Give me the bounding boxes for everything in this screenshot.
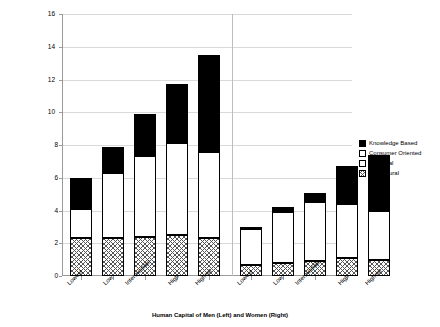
bar-lowest-women[interactable] bbox=[240, 227, 262, 276]
bar-segment-consumer[interactable] bbox=[368, 211, 390, 260]
bar-segment-consumer[interactable] bbox=[240, 229, 262, 265]
bar-segment-agricultural[interactable] bbox=[272, 263, 294, 276]
bar-segment-consumer[interactable] bbox=[272, 212, 294, 263]
bar-segment-consumer[interactable] bbox=[102, 173, 124, 239]
y-tick-label-16: 16 bbox=[33, 10, 55, 17]
y-tick-label-2: 2 bbox=[36, 239, 58, 246]
bars-layer bbox=[62, 14, 352, 276]
chart-container: Business Creator Prevalence (#/100 Adult… bbox=[0, 0, 440, 327]
x-tick-mark bbox=[315, 276, 316, 280]
bar-segment-agricultural[interactable] bbox=[336, 258, 358, 276]
bar-segment-agricultural[interactable] bbox=[166, 235, 188, 276]
panel-separator bbox=[232, 14, 233, 276]
legend-label: Industrial bbox=[369, 160, 393, 167]
bar-high-men[interactable] bbox=[166, 84, 188, 276]
x-tick-label-low-men: Low bbox=[102, 274, 114, 286]
bar-segment-knowledge[interactable] bbox=[134, 114, 156, 157]
x-tick-mark bbox=[145, 276, 146, 280]
bar-segment-knowledge[interactable] bbox=[240, 227, 262, 229]
y-tick-label-8: 8 bbox=[36, 141, 58, 148]
y-tick-label-14: 14 bbox=[33, 43, 55, 50]
x-tick-label-low-women: Low bbox=[272, 274, 284, 286]
bar-highest-men[interactable] bbox=[198, 55, 220, 276]
legend-item-consumer-oriented[interactable]: Consumer Oriented bbox=[359, 150, 439, 157]
bar-high-women[interactable] bbox=[336, 166, 358, 276]
bar-segment-consumer[interactable] bbox=[134, 156, 156, 236]
bar-segment-knowledge[interactable] bbox=[272, 207, 294, 212]
bar-segment-knowledge[interactable] bbox=[102, 147, 124, 173]
bar-low-men[interactable] bbox=[102, 147, 124, 276]
y-tick-label-0: 0 bbox=[36, 272, 58, 279]
y-tick-label-10: 10 bbox=[33, 108, 55, 115]
legend-swatch-icon bbox=[359, 160, 366, 167]
bar-intermediate-men[interactable] bbox=[134, 114, 156, 276]
bar-segment-knowledge[interactable] bbox=[336, 166, 358, 204]
x-tick-mark bbox=[209, 276, 210, 280]
bar-segment-knowledge[interactable] bbox=[304, 193, 326, 203]
legend-label: Knowledge Based bbox=[369, 140, 417, 147]
legend-swatch-icon bbox=[359, 150, 366, 157]
bar-lowest-men[interactable] bbox=[70, 178, 92, 276]
legend-item-industrial[interactable]: Industrial bbox=[359, 160, 439, 167]
legend-label: Consumer Oriented bbox=[369, 150, 421, 157]
x-tick-mark bbox=[251, 276, 252, 280]
y-tick-label-6: 6 bbox=[36, 174, 58, 181]
legend: Knowledge Based Consumer Oriented Indust… bbox=[359, 140, 439, 180]
legend-label: Agricultural bbox=[369, 170, 399, 177]
bar-segment-knowledge[interactable] bbox=[166, 84, 188, 143]
bar-segment-consumer[interactable] bbox=[198, 152, 220, 239]
legend-item-knowledge-based[interactable]: Knowledge Based bbox=[359, 140, 439, 147]
bar-segment-knowledge[interactable] bbox=[198, 55, 220, 152]
y-tick-mark bbox=[59, 276, 62, 277]
bar-segment-consumer[interactable] bbox=[304, 202, 326, 261]
legend-swatch-icon bbox=[359, 170, 366, 177]
x-axis-label: Human Capital of Men (Left) and Women (R… bbox=[0, 312, 440, 318]
bar-segment-consumer[interactable] bbox=[166, 143, 188, 235]
bar-segment-knowledge[interactable] bbox=[70, 178, 92, 209]
y-tick-label-4: 4 bbox=[36, 207, 58, 214]
x-tick-mark bbox=[81, 276, 82, 280]
bar-segment-consumer[interactable] bbox=[336, 204, 358, 258]
legend-item-agricultural[interactable]: Agricultural bbox=[359, 170, 439, 177]
bar-segment-agricultural[interactable] bbox=[102, 238, 124, 276]
legend-swatch-icon bbox=[359, 140, 366, 147]
bar-low-women[interactable] bbox=[272, 207, 294, 276]
y-tick-label-12: 12 bbox=[33, 76, 55, 83]
bar-segment-consumer[interactable] bbox=[70, 209, 92, 238]
